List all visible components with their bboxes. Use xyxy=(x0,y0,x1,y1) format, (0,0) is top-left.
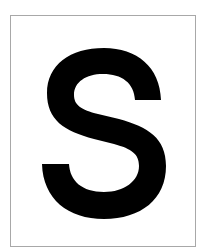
letter-glyph: S xyxy=(42,48,166,219)
letter-s-shape xyxy=(42,48,166,219)
